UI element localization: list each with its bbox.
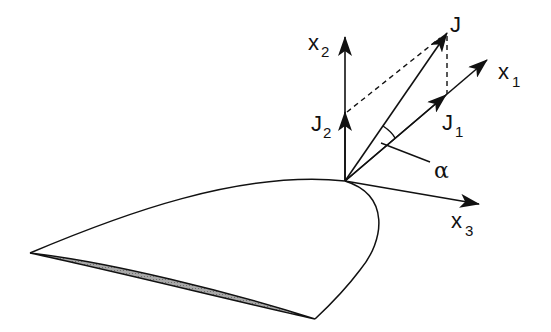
svg-text:J: J bbox=[450, 12, 461, 37]
label-alpha: α bbox=[434, 158, 449, 183]
label-x1: x 1 bbox=[498, 59, 520, 90]
svg-text:α: α bbox=[434, 158, 449, 183]
angle-alpha-leader bbox=[381, 143, 430, 162]
airfoil-upper-curve bbox=[30, 179, 345, 253]
airfoil-shape bbox=[30, 179, 379, 319]
airfoil-tip-edge bbox=[315, 181, 379, 319]
svg-text:1: 1 bbox=[512, 73, 520, 90]
label-J2: J 2 bbox=[311, 111, 331, 141]
svg-text:x: x bbox=[498, 59, 509, 84]
svg-text:1: 1 bbox=[455, 123, 463, 140]
svg-text:x: x bbox=[308, 30, 319, 55]
airfoil-lower-surface-shading bbox=[30, 253, 315, 319]
x3-axis bbox=[345, 181, 479, 204]
label-J1: J 1 bbox=[442, 110, 463, 140]
svg-text:x: x bbox=[451, 208, 462, 233]
svg-text:2: 2 bbox=[321, 43, 329, 60]
label-x3: x 3 bbox=[451, 208, 473, 239]
svg-text:2: 2 bbox=[323, 124, 331, 141]
label-x2: x 2 bbox=[308, 30, 329, 60]
projection-J-to-J2 bbox=[347, 38, 440, 112]
label-J: J bbox=[450, 12, 461, 37]
angle-alpha-arc bbox=[383, 126, 395, 138]
svg-text:J: J bbox=[311, 111, 322, 136]
svg-text:3: 3 bbox=[465, 222, 473, 239]
svg-text:J: J bbox=[442, 110, 453, 135]
airfoil-vector-diagram: x 2 x 1 x 3 J J 1 J 2 α bbox=[0, 0, 551, 332]
